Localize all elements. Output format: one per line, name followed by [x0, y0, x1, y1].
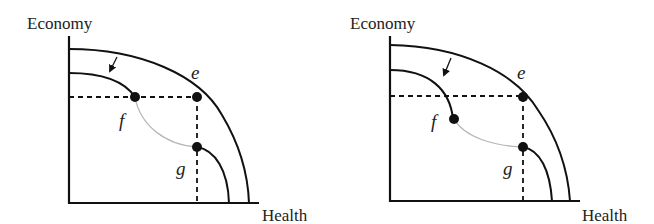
point-f	[449, 114, 459, 124]
diagram-canvas: Economy Health e f g Economy Health	[0, 0, 654, 224]
axes	[390, 36, 580, 201]
shift-arrow-icon	[110, 57, 117, 71]
outer-ppf-curve	[390, 45, 570, 201]
label-e: e	[191, 62, 199, 83]
label-g: g	[176, 158, 186, 179]
inner-ppf-upper-curve	[390, 70, 453, 119]
label-g: g	[503, 158, 513, 179]
f-to-g-connector	[135, 97, 197, 147]
inner-ppf-lower-curve	[523, 147, 552, 201]
shift-arrow-icon	[444, 58, 451, 75]
f-to-g-connector	[454, 119, 523, 147]
label-f: f	[431, 111, 439, 132]
inner-ppf-lower-curve	[197, 147, 229, 203]
point-g	[192, 142, 202, 152]
y-axis-label: Economy	[350, 14, 416, 33]
x-axis-label: Health	[262, 206, 308, 224]
label-e: e	[517, 62, 525, 83]
x-axis-label: Health	[582, 206, 628, 224]
point-e	[192, 92, 202, 102]
outer-ppf-curve	[69, 49, 249, 203]
y-axis-label: Economy	[27, 14, 93, 33]
axes	[69, 36, 259, 203]
left-panel: Economy Health e f g	[27, 14, 308, 224]
point-f	[130, 92, 140, 102]
point-e	[518, 92, 528, 102]
inner-ppf-upper-curve	[69, 73, 135, 97]
label-f: f	[119, 110, 127, 131]
point-g	[518, 142, 528, 152]
right-panel: Economy Health e f g	[350, 14, 628, 224]
